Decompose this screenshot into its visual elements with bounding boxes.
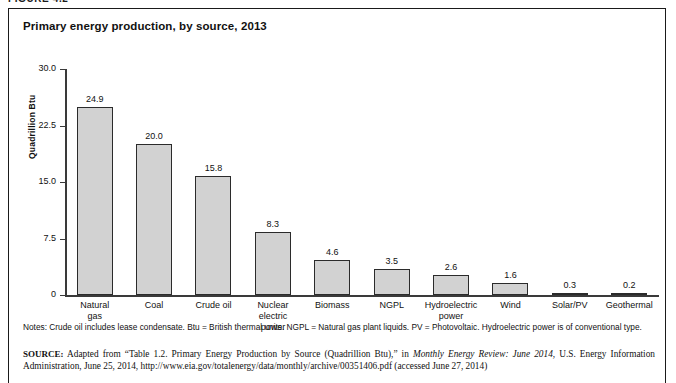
bar-slot: 20.0 <box>124 69 183 295</box>
bar[interactable] <box>314 260 350 295</box>
bar[interactable] <box>552 293 588 295</box>
x-axis-category-label: Geothermal <box>600 300 659 311</box>
x-axis-label-line: Biomass <box>303 300 362 311</box>
bar-slot: 15.8 <box>184 69 243 295</box>
bar-slot: 1.6 <box>481 69 540 295</box>
x-axis-line <box>65 295 659 297</box>
bar-value-label: 4.6 <box>326 247 339 257</box>
x-axis-label-line: NGPL <box>362 300 421 311</box>
x-axis-category-label: Naturalgas <box>65 300 124 322</box>
source-text-part1: Adapted from “Table 1.2. Primary Energy … <box>64 349 413 359</box>
bar-value-label: 24.9 <box>86 94 104 104</box>
x-axis-category-label: Biomass <box>303 300 362 311</box>
x-axis-label-line: power <box>421 311 480 322</box>
x-axis-label-line: Nuclear electric <box>243 300 302 322</box>
x-axis-label-line: Wind <box>481 300 540 311</box>
bar[interactable] <box>77 107 113 295</box>
x-axis-category-label: Crude oil <box>184 300 243 311</box>
bar[interactable] <box>255 232 291 295</box>
bar-slot: 24.9 <box>65 69 124 295</box>
bar[interactable] <box>374 269 410 295</box>
chart-notes: Notes: Crude oil includes lease condensa… <box>23 322 653 333</box>
bar[interactable] <box>433 275 469 295</box>
y-axis-tick-label: 7.5 <box>43 233 56 243</box>
figure-box: Primary energy production, by source, 20… <box>8 8 666 383</box>
bar-slot: 8.3 <box>243 69 302 295</box>
y-axis-tick: 0 <box>60 295 65 296</box>
bar-value-label: 3.5 <box>385 256 398 266</box>
plot-area: 07.515.022.530.0 24.920.015.88.34.63.52.… <box>65 69 659 295</box>
bar-value-label: 2.6 <box>445 262 458 272</box>
source-publication-title: Monthly Energy Review: June 2014 <box>413 349 553 359</box>
bar-value-label: 0.3 <box>564 280 577 290</box>
y-axis-tick-label: 30.0 <box>38 63 56 73</box>
bar-value-label: 8.3 <box>267 219 280 229</box>
chart-source: SOURCE: Adapted from “Table 1.2. Primary… <box>23 348 655 372</box>
x-axis-category-label: Hydroelectricpower <box>421 300 480 322</box>
bar-series: 24.920.015.88.34.63.52.61.60.30.2 <box>65 69 659 295</box>
bar-value-label: 0.2 <box>623 280 636 290</box>
y-axis-title: Quadrillion Btu <box>27 95 37 159</box>
bar-value-label: 1.6 <box>504 270 517 280</box>
bar-slot: 3.5 <box>362 69 421 295</box>
bar-value-label: 15.8 <box>205 163 223 173</box>
bar-slot: 2.6 <box>421 69 480 295</box>
bar-slot: 0.3 <box>540 69 599 295</box>
bar-slot: 0.2 <box>600 69 659 295</box>
y-axis-tick-label: 15.0 <box>38 176 56 186</box>
source-prefix: SOURCE: <box>23 349 64 359</box>
bar[interactable] <box>611 293 647 295</box>
y-axis-tick-label: 22.5 <box>38 120 56 130</box>
figure-number-label: FIGURE 4.2 <box>8 0 68 3</box>
x-axis-label-line: Hydroelectric <box>421 300 480 311</box>
bar-slot: 4.6 <box>303 69 362 295</box>
x-axis-label-line: Natural <box>65 300 124 311</box>
x-axis-label-line: Crude oil <box>184 300 243 311</box>
bar[interactable] <box>136 144 172 295</box>
x-axis-label-line: Solar/PV <box>540 300 599 311</box>
x-axis-label-line: Coal <box>124 300 183 311</box>
x-axis-category-label: NGPL <box>362 300 421 311</box>
x-axis-label-line: Geothermal <box>600 300 659 311</box>
x-axis-category-label: Solar/PV <box>540 300 599 311</box>
x-axis-category-label: Coal <box>124 300 183 311</box>
x-axis-label-line: gas <box>65 311 124 322</box>
bar[interactable] <box>492 283 528 295</box>
bar-value-label: 20.0 <box>145 131 163 141</box>
chart-title: Primary energy production, by source, 20… <box>23 20 267 32</box>
bar[interactable] <box>195 176 231 295</box>
y-axis-tick-label: 0 <box>51 289 56 299</box>
x-axis-category-label: Wind <box>481 300 540 311</box>
